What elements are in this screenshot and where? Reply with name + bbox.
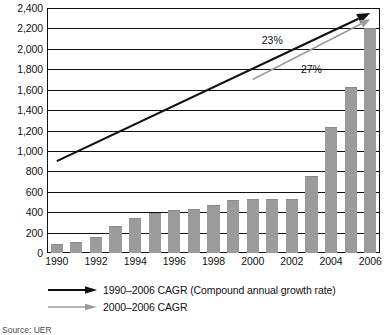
legend-item-2000-2006-cagr: 2000–2006 CAGR [47,298,377,315]
bar [109,226,121,253]
y-tick-label: 400 [0,207,43,218]
x-tick-label: 1990 [45,255,68,267]
gridline [47,110,380,111]
cagr-annotation-label: 27% [301,64,322,75]
gridline [47,28,380,29]
gridline [47,49,380,50]
bar [286,199,298,253]
bar [70,242,82,253]
x-tick-label: 2004 [320,255,343,267]
plot-area: 23%27% [47,8,380,253]
y-tick-label: 200 [0,227,43,238]
arrow-right-icon [47,284,103,296]
bar [305,176,317,253]
bar [207,205,219,253]
x-tick-label: 2002 [280,255,303,267]
y-tick-label: 1,400 [0,105,43,116]
y-tick-label: 0 [0,248,43,259]
x-tick-label: 1996 [163,255,186,267]
bar [364,28,376,253]
y-tick-label: 2,400 [0,3,43,14]
x-tick-label: 2000 [241,255,264,267]
y-tick-label: 600 [0,187,43,198]
y-axis: 02004006008001,0001,2001,4001,6001,8002,… [0,8,43,253]
y-tick-label: 2,200 [0,23,43,34]
y-tick-label: 2,000 [0,44,43,55]
x-tick-label: 1998 [202,255,225,267]
y-tick-label: 1,200 [0,125,43,136]
bar [325,127,337,253]
x-tick-label: 1992 [84,255,107,267]
gridline [47,90,380,91]
y-tick-label: 800 [0,166,43,177]
bar [345,87,357,253]
bar [266,199,278,253]
gridline [47,69,380,70]
bar-chart-figure: 02004006008001,0001,2001,4001,6001,8002,… [0,0,386,335]
bar [149,213,161,253]
bar [90,237,102,253]
x-tick-label: 1994 [124,255,147,267]
legend-label: 1990–2006 CAGR (Compound annual growth r… [103,284,336,296]
bar [129,218,141,253]
y-tick-label: 1,000 [0,146,43,157]
bar [188,209,200,253]
cagr-annotation-label: 23% [262,34,283,45]
y-tick-label: 1,800 [0,64,43,75]
bar [51,244,63,253]
source-note: Source: UER [2,326,52,335]
x-tick-label: 2006 [359,255,382,267]
x-axis: 199019921994199619982000200220042006 [47,255,380,271]
bar [168,210,180,253]
legend-label: 2000–2006 CAGR [103,301,187,313]
legend-item-1990-2006-cagr: 1990–2006 CAGR (Compound annual growth r… [47,281,377,298]
y-tick-label: 1,600 [0,84,43,95]
bar [227,200,239,253]
chart-legend: 1990–2006 CAGR (Compound annual growth r… [47,281,377,315]
bar [247,199,259,253]
arrow-right-icon [47,301,103,313]
